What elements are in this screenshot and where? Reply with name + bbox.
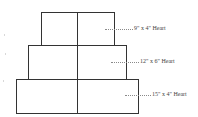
leader-line-middle [111,62,139,63]
scan-mark [3,80,4,82]
tier-top-box [41,12,115,46]
tier-top-label: 9" x 4" Heart [134,25,166,32]
leader-line-top [105,29,133,30]
leader-line-bottom [125,95,151,96]
tier-middle-label: 12" x 6" Heart [140,58,175,65]
scan-mark [5,53,6,55]
scan-mark [4,34,5,36]
center-divider-line [77,12,78,114]
tier-bottom-label: 15" x 4" Heart [152,91,187,98]
